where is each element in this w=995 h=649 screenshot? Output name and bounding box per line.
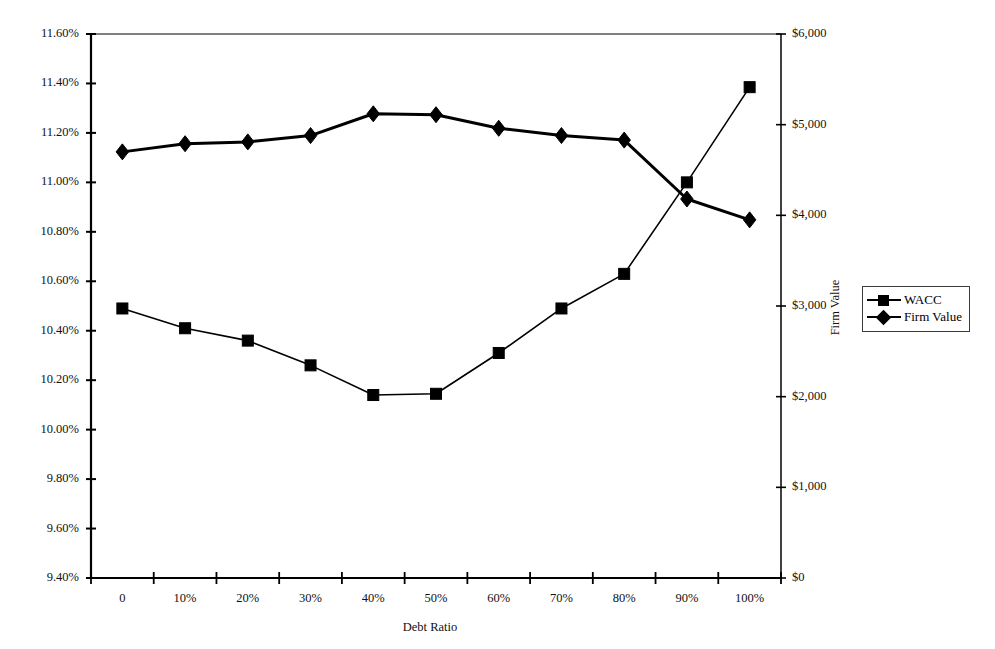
y-axis-tick-label: 10.40% [0, 324, 79, 337]
x-axis-tick-label: 70% [530, 592, 593, 605]
series-wacc [117, 82, 755, 401]
y-axis-right-tick-label: $5,000 [792, 118, 826, 131]
x-axis-tick-label: 90% [656, 592, 719, 605]
chart-canvas: 11.60%11.40%11.20%11.00%10.80%10.60%10.4… [0, 0, 995, 649]
y-axis-right-tick-label: $3,000 [792, 299, 826, 312]
y-axis-tick-label: 10.60% [0, 274, 79, 287]
series-firm-value [116, 106, 756, 228]
x-axis-tick-label: 50% [405, 592, 468, 605]
y-axis-right-title: Firm Value [828, 263, 843, 353]
y-axis-tick-label: 10.80% [0, 225, 79, 238]
legend-item-wacc[interactable]: WACC [867, 291, 962, 308]
y-axis-tick-label: 9.60% [0, 522, 79, 535]
x-axis-tick-label: 0 [91, 592, 154, 605]
legend-label-firm-value: Firm Value [904, 310, 962, 323]
y-axis-tick-label: 10.20% [0, 373, 79, 386]
x-axis-tick-label: 40% [342, 592, 405, 605]
y-axis-tick-label: 11.60% [0, 27, 79, 40]
y-axis-right-tick-label: $0 [792, 571, 805, 584]
y-axis-tick-label: 10.00% [0, 423, 79, 436]
y-axis-tick-label: 11.40% [0, 76, 79, 89]
line-chart-plot [0, 0, 995, 649]
y-axis-right-tick-label: $6,000 [792, 27, 826, 40]
x-axis-tick-label: 10% [154, 592, 217, 605]
y-axis-tick-label: 9.80% [0, 472, 79, 485]
x-axis-tick-label: 20% [216, 592, 279, 605]
x-axis-tick-label: 60% [467, 592, 530, 605]
legend-item-firm-value[interactable]: Firm Value [867, 308, 962, 325]
y-axis-right-tick-label: $1,000 [792, 480, 826, 493]
firm-value-series-marker-icon [867, 310, 901, 324]
x-axis-tick-label: 100% [718, 592, 781, 605]
y-axis-right-tick-label: $2,000 [792, 390, 826, 403]
x-axis-tick-label: 80% [593, 592, 656, 605]
x-axis-title: Debt Ratio [0, 620, 860, 635]
y-axis-tick-label: 9.40% [0, 571, 79, 584]
x-axis-tick-label: 30% [279, 592, 342, 605]
y-axis-tick-label: 11.20% [0, 126, 79, 139]
legend-label-wacc: WACC [904, 293, 942, 306]
wacc-series-marker-icon [867, 293, 901, 307]
y-axis-right-tick-label: $4,000 [792, 208, 826, 221]
y-axis-tick-label: 11.00% [0, 175, 79, 188]
chart-legend: WACC Firm Value [862, 286, 970, 332]
